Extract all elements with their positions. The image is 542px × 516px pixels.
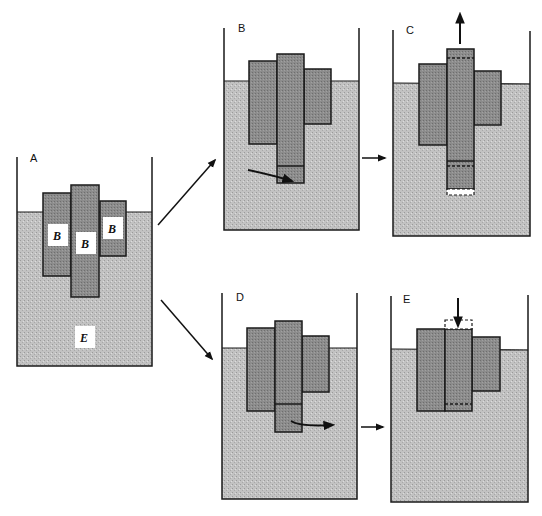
block-center [275,321,302,432]
arrow-a-to-d [161,300,212,359]
block-label-right: B [107,222,116,236]
block-left [419,64,447,145]
block-right [474,71,501,125]
block-right [472,337,500,391]
panel-label-e: E [403,293,410,305]
block-right [304,69,331,124]
panel-d: D [222,291,357,499]
block-label-left: B [52,229,61,243]
panel-e: E [391,293,528,502]
panel-label-b: B [238,22,245,34]
block-left [417,329,445,411]
panel-a: A B B B E [17,152,152,366]
block-label-center: B [80,237,89,251]
block-center [277,54,304,183]
block-center [447,49,474,189]
arrow-a-to-b [158,160,215,225]
block-right [302,336,329,392]
panel-c: C [393,14,530,236]
block-left [247,328,275,411]
panel-label-a: A [30,152,38,164]
panel-label-c: C [406,24,414,36]
panel-b: B [224,22,359,230]
block-left [249,61,277,144]
buoyancy-diagram: A B B B E B C [0,0,542,516]
fluid-label: E [79,331,88,345]
panel-label-d: D [236,291,244,303]
block-center [445,329,472,411]
